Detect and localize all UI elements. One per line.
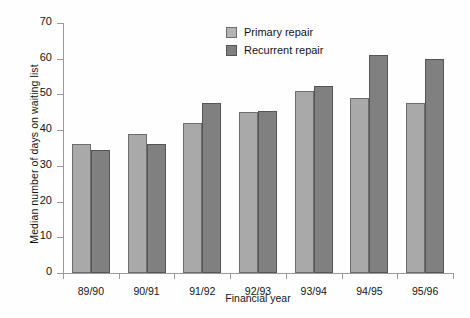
y-tick: 60 [57,59,63,60]
y-tick: 70 [57,23,63,24]
legend-swatch-icon [226,45,237,56]
bar [72,144,91,273]
chart-figure: Median number of days on waiting list 01… [0,0,470,318]
y-tick-label: 30 [40,158,52,170]
y-tick: 40 [57,130,63,131]
x-tick [230,273,231,279]
y-tick-label: 0 [46,265,52,277]
y-axis-title: Median number of days on waiting list [28,34,40,274]
x-tick [453,273,454,279]
bar [239,112,258,273]
x-tick [174,273,175,279]
bar [369,55,388,273]
x-tick [342,273,343,279]
x-tick [63,273,64,279]
bar [128,134,147,273]
y-tick: 50 [57,94,63,95]
legend-swatch-icon [226,27,237,38]
bar [425,59,444,273]
y-tick-label: 70 [40,15,52,27]
y-tick: 10 [57,237,63,238]
legend-label: Recurrent repair [244,44,323,56]
y-tick-label: 60 [40,51,52,63]
y-tick-label: 40 [40,122,52,134]
bar [350,98,369,273]
plot-area: 010203040506070 89/9090/9191/9292/9393/9… [63,23,453,273]
y-tick-label: 20 [40,194,52,206]
bar [406,103,425,273]
x-tick [397,273,398,279]
y-axis-line [63,23,64,274]
y-tick: 20 [57,202,63,203]
y-tick: 30 [57,166,63,167]
chart-legend: Primary repairRecurrent repair [226,24,323,60]
y-tick-label: 10 [40,229,52,241]
bar [258,111,277,274]
legend-item: Primary repair [226,24,323,40]
x-axis-title: Financial year [63,292,453,304]
bar [314,86,333,274]
x-tick [286,273,287,279]
y-tick-label: 50 [40,86,52,98]
bar [202,103,221,273]
bar [183,123,202,273]
bar [295,91,314,273]
bar [91,150,110,273]
legend-item: Recurrent repair [226,42,323,58]
x-axis-line [63,273,454,274]
bar [147,144,166,273]
x-tick [119,273,120,279]
legend-label: Primary repair [244,26,313,38]
